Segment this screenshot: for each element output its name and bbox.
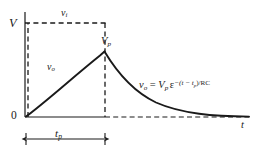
equation-amplitude-subscript: p (165, 84, 169, 92)
input-pulse-label: vi (61, 8, 67, 19)
waveform-plot-svg (0, 0, 256, 153)
discharge-equation: vo=Vpε−(t − tp)/RC (139, 80, 210, 92)
peak-value-label-subscript: p (108, 40, 112, 48)
input-pulse-label-subscript: i (66, 11, 68, 18)
equation-equals: = (150, 79, 156, 90)
pulse-width-label: tp (55, 128, 62, 140)
output-charge-curve (26, 52, 105, 117)
t-axis-label: t (241, 120, 244, 131)
equation-lhs: v (139, 79, 144, 90)
equation-exponent-tail: )/RC (196, 79, 210, 87)
rc-waveform-figure: V vi Vp vo 0 tp t vo=Vpε−(t − tp)/RC (0, 0, 256, 153)
origin-label: 0 (11, 110, 17, 122)
input-pulse-label-main: v (61, 7, 65, 18)
equation-amplitude: V (158, 79, 164, 90)
pulse-width-label-subscript: p (58, 132, 62, 141)
output-curve-label: vo (47, 62, 55, 73)
equation-lhs-subscript: o (144, 84, 148, 92)
peak-value-label-main: V (101, 35, 107, 46)
equation-exponent: −(t − t (174, 79, 194, 87)
peak-value-label: Vp (101, 36, 111, 48)
output-curve-label-subscript: o (52, 65, 55, 72)
v-axis-label: V (9, 17, 17, 30)
output-curve-label-main: v (47, 61, 51, 72)
